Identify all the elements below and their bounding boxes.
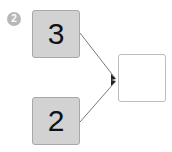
arrow-line-bottom [80, 82, 115, 122]
arrowhead-bottom-icon [111, 80, 116, 86]
arrowhead-top-icon [111, 74, 116, 80]
connector-arrows [0, 0, 172, 152]
arrow-line-top [80, 33, 115, 78]
